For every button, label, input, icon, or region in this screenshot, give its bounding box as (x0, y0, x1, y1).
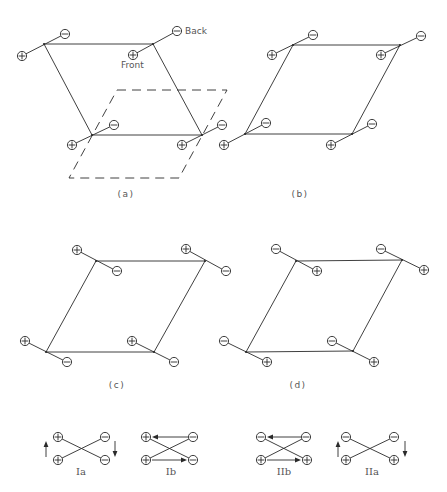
scheme-label: Ia (76, 466, 86, 477)
legend-schemes-layer: IaIbIIbIIa (44, 432, 408, 477)
dipole (20, 336, 71, 366)
annotation-front: Front (121, 60, 144, 70)
negative-ion-icon (256, 432, 265, 441)
arrow-left-icon (267, 435, 301, 440)
negative-ion-icon (100, 455, 109, 464)
scheme-label: IIa (365, 466, 379, 477)
positive-ion-icon (312, 266, 321, 275)
unit-cell-outline (46, 261, 205, 352)
positive-ion-icon (256, 455, 265, 464)
negative-ion-icon (376, 244, 385, 253)
arrow-right-icon (267, 458, 301, 463)
positive-ion-icon (389, 455, 398, 464)
panel-label: (c) (109, 380, 125, 390)
positive-ion-icon (53, 455, 62, 464)
scheme-label: IIb (277, 466, 291, 477)
positive-ion-icon (219, 140, 228, 149)
scheme-ia: Ia (44, 432, 118, 477)
unit-cell-outline (246, 260, 402, 352)
dipole (128, 26, 181, 59)
negative-ion-icon (308, 30, 317, 39)
positive-ion-icon (141, 455, 150, 464)
negative-ion-icon (169, 357, 178, 366)
positive-ion-icon (419, 265, 428, 274)
arrow-up-icon (336, 441, 341, 457)
negative-ion-icon (112, 266, 121, 275)
scheme-ib: Ib (141, 432, 197, 477)
scheme-iib: IIb (256, 432, 311, 477)
negative-ion-icon (416, 31, 425, 40)
positive-ion-icon (341, 455, 350, 464)
negative-ion-icon (389, 432, 398, 441)
panel-label: (d) (289, 380, 306, 390)
dipole (376, 31, 425, 59)
dipole (72, 245, 121, 275)
positive-ion-icon (141, 432, 150, 441)
unit-cell-outline (44, 44, 202, 135)
dipole (17, 29, 69, 60)
arrow-down-icon (113, 441, 118, 457)
positive-ion-icon (267, 50, 276, 59)
dipole-arrangement-figure: BackFront(a)(b)(c)(d) IaIbIIbIIa (0, 0, 447, 492)
dipole (127, 336, 178, 366)
negative-ion-icon (341, 432, 350, 441)
panel-d: (d) (219, 244, 428, 390)
scheme-label: Ib (166, 466, 176, 477)
negative-ion-icon (261, 118, 270, 127)
arrow-up-icon (44, 441, 49, 457)
negative-ion-icon (60, 29, 69, 38)
negative-ion-icon (109, 120, 118, 129)
positive-ion-icon (127, 336, 136, 345)
panel-c: (c) (20, 244, 230, 390)
dipole (181, 244, 230, 275)
panels-layer: BackFront(a)(b)(c)(d) (17, 26, 428, 390)
positive-ion-icon (53, 432, 62, 441)
negative-ion-icon (100, 432, 109, 441)
annotation-back: Back (185, 26, 208, 36)
negative-ion-icon (327, 336, 336, 345)
negative-ion-icon (62, 357, 71, 366)
positive-ion-icon (369, 357, 378, 366)
negative-ion-icon (301, 432, 310, 441)
positive-ion-icon (302, 455, 311, 464)
negative-ion-icon (172, 26, 181, 35)
panel-b: (b) (219, 30, 425, 199)
negative-ion-icon (188, 432, 197, 441)
positive-ion-icon (181, 244, 190, 253)
panel-label: (b) (291, 189, 308, 199)
negative-ion-icon (217, 120, 226, 129)
positive-ion-icon (326, 140, 335, 149)
positive-ion-icon (67, 140, 76, 149)
negative-ion-icon (221, 266, 230, 275)
positive-ion-icon (262, 357, 271, 366)
dipole (376, 244, 428, 274)
panel-a: BackFront(a) (17, 26, 227, 199)
negative-ion-icon (188, 455, 197, 464)
positive-ion-icon (376, 50, 385, 59)
arrow-right-icon (152, 458, 187, 463)
positive-ion-icon (177, 140, 186, 149)
positive-ion-icon (20, 336, 29, 345)
positive-ion-icon (128, 50, 137, 59)
negative-ion-icon (367, 119, 376, 128)
scheme-iia: IIa (336, 432, 408, 477)
panel-label: (a) (117, 189, 134, 199)
arrow-left-icon (152, 435, 188, 440)
negative-ion-icon (271, 244, 280, 253)
arrow-down-icon (403, 441, 408, 457)
negative-ion-icon (219, 336, 228, 345)
dipole (326, 119, 376, 149)
positive-ion-icon (72, 245, 81, 254)
positive-ion-icon (17, 51, 26, 60)
dipole (271, 244, 321, 275)
